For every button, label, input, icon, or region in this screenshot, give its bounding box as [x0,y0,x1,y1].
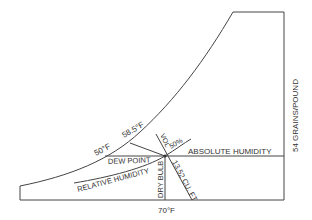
absolute-humidity-label: ABSOLUTE HUMIDITY [188,147,272,156]
state-point [163,154,166,157]
specific-volume-label: 13.52 CU. FT [170,159,199,203]
relative-humidity-label: RELATIVE HUMIDITY [76,166,150,194]
wet-bulb-temp-label: 58.5°F [121,120,146,140]
dew-point-label: DEW POINT [108,156,151,166]
psychrometric-diagram: 50°F 58.5°F DEW POINT RELATIVE HUMIDITY … [0,0,312,220]
dry-bulb-temp-label: 70°F [158,206,175,215]
grains-label: 54 GRAINS/POUND [291,79,300,152]
diagram-svg: 50°F 58.5°F DEW POINT RELATIVE HUMIDITY … [0,0,312,220]
rh-value-label: 50% [168,137,184,150]
chart-frame [20,12,284,200]
wet-bulb-line [130,143,165,156]
dry-bulb-label: DRY BULB [156,161,165,198]
dew-point-temp-label: 50°F [93,142,112,158]
